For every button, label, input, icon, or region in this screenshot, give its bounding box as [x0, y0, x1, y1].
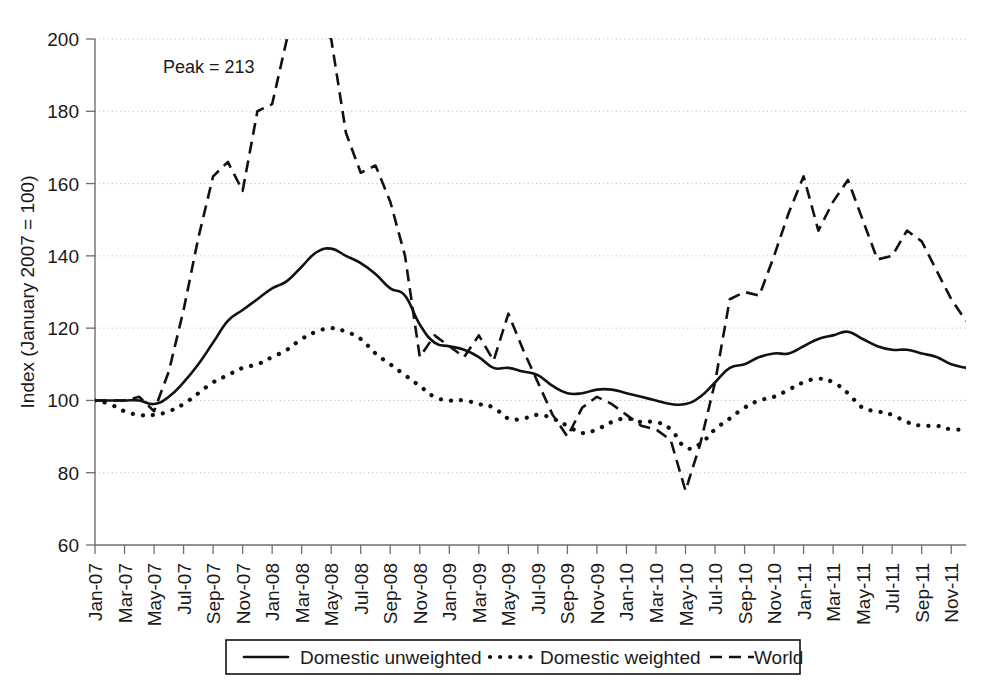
peak-annotation-label: Peak = 213: [163, 57, 255, 77]
x-tick-label: Sep-08: [380, 563, 401, 624]
x-tick-label: Jul-10: [705, 563, 726, 615]
x-tick-label: Nov-08: [410, 563, 431, 624]
y-tick-label: 180: [47, 101, 79, 122]
x-tick-label: Jan-07: [85, 563, 106, 621]
x-tick-label: Jul-08: [351, 563, 372, 615]
x-tick-label: Sep-11: [912, 563, 933, 623]
x-tick-label: Jul-11: [882, 563, 903, 613]
x-tick-label: May-09: [498, 563, 519, 626]
x-tick-label: Mar-09: [469, 563, 490, 623]
legend-label: Domestic weighted: [540, 647, 701, 668]
x-tick-label: Sep-10: [735, 563, 756, 624]
y-tick-label: 140: [47, 246, 79, 267]
y-tick-label: 100: [47, 390, 79, 411]
y-tick-label: 60: [58, 535, 79, 556]
legend-label: Domestic unweighted: [300, 647, 482, 668]
y-tick-label: 80: [58, 463, 79, 484]
x-tick-label: Jan-10: [616, 563, 637, 621]
x-tick-label: May-07: [144, 563, 165, 626]
x-tick-label: Mar-08: [292, 563, 313, 623]
x-tick-label: Mar-10: [646, 563, 667, 623]
x-tick-label: Jan-08: [262, 563, 283, 621]
x-tick-label: Jul-07: [174, 563, 195, 615]
legend-label: World: [754, 647, 803, 668]
x-tick-label: Sep-09: [557, 563, 578, 624]
x-tick-label: Mar-11: [823, 563, 844, 622]
x-tick-label: May-08: [321, 563, 342, 626]
x-tick-label: Jan-11: [794, 563, 815, 620]
x-tick-label: Mar-07: [115, 563, 136, 623]
x-tick-label: Nov-07: [233, 563, 254, 624]
x-tick-label: Sep-07: [203, 563, 224, 624]
y-tick-label: 160: [47, 174, 79, 195]
y-tick-label: 120: [47, 318, 79, 339]
chart-legend: Domestic unweightedDomestic weightedWorl…: [226, 640, 803, 674]
x-tick-label: Nov-11: [941, 563, 962, 623]
x-tick-label: Jul-09: [528, 563, 549, 615]
x-tick-label: Nov-10: [764, 563, 785, 624]
x-tick-label: May-10: [676, 563, 697, 626]
x-tick-label: Jan-09: [439, 563, 460, 621]
chart-figure: 6080100120140160180200 Jan-07Mar-07May-0…: [0, 0, 997, 698]
x-tick-label: May-11: [853, 563, 874, 625]
y-axis-title: Index (January 2007 = 100): [17, 176, 38, 409]
y-tick-label: 200: [47, 29, 79, 50]
index-line-chart: 6080100120140160180200 Jan-07Mar-07May-0…: [0, 0, 997, 698]
x-tick-label: Nov-09: [587, 563, 608, 624]
